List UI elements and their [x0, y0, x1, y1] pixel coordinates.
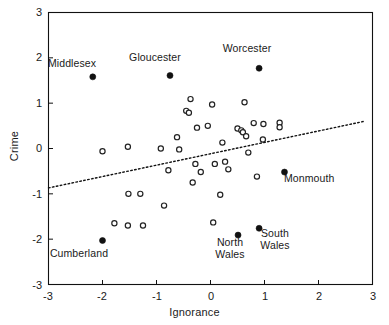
data-point-open: [177, 147, 182, 152]
data-point-labelled: [256, 65, 262, 71]
data-point-open: [211, 220, 216, 225]
trend-line: [49, 121, 365, 188]
data-point-open: [226, 167, 231, 172]
data-point-open: [188, 96, 193, 101]
data-point-open: [260, 137, 265, 142]
axis-tick-marks: [49, 13, 373, 285]
data-point-open: [174, 135, 179, 140]
data-point-open: [198, 169, 203, 174]
data-point-labelled: [281, 169, 287, 175]
plot-canvas: [0, 0, 389, 325]
data-point-open: [244, 134, 249, 139]
data-point-open: [246, 150, 251, 155]
data-point-open: [112, 221, 117, 226]
data-point-labelled: [235, 232, 241, 238]
data-point-open: [193, 161, 198, 166]
data-point-open: [161, 203, 166, 208]
data-point-open: [190, 180, 195, 185]
data-point-open: [166, 168, 171, 173]
data-point-open: [261, 121, 266, 126]
plot-frame: [49, 13, 373, 285]
data-point-open: [212, 161, 217, 166]
data-point-open: [205, 123, 210, 128]
scatter-plot-figure: Crime Ignorance 3 2 1 0 -1 -2 -3 -3 -2 -…: [0, 0, 389, 325]
data-point-open: [125, 223, 130, 228]
open-data-points: [100, 96, 282, 228]
data-point-open: [210, 102, 215, 107]
data-point-open: [138, 191, 143, 196]
data-point-open: [218, 192, 223, 197]
data-point-open: [277, 125, 282, 130]
data-point-open: [125, 144, 130, 149]
data-point-open: [140, 223, 145, 228]
data-point-labelled: [90, 74, 96, 80]
data-point-open: [254, 174, 259, 179]
data-point-open: [100, 149, 105, 154]
data-point-open: [186, 110, 191, 115]
data-point-open: [242, 100, 247, 105]
data-point-labelled: [167, 73, 173, 79]
data-point-open: [251, 121, 256, 126]
data-point-open: [220, 140, 225, 145]
data-point-labelled: [100, 238, 106, 244]
data-point-open: [194, 125, 199, 130]
data-point-open: [158, 146, 163, 151]
data-point-open: [126, 191, 131, 196]
data-point-labelled: [256, 225, 262, 231]
data-point-open: [222, 159, 227, 164]
labelled-data-points: [90, 65, 288, 243]
